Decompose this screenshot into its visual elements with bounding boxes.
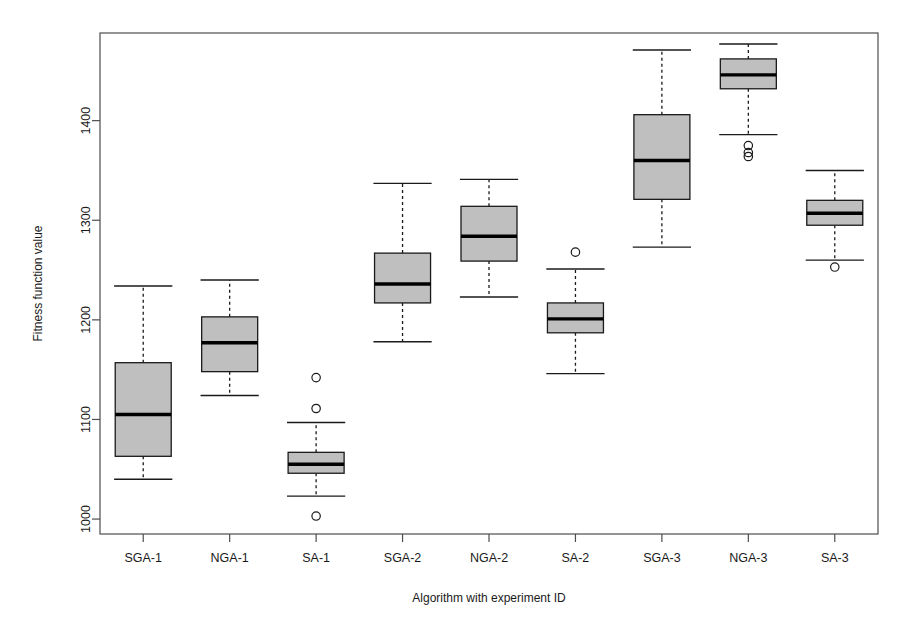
x-axis-tick-label-sa-1: SA-1 bbox=[302, 551, 330, 565]
box-group-sga-3 bbox=[633, 50, 691, 247]
plot-frame bbox=[100, 33, 878, 534]
box-group-nga-3 bbox=[719, 44, 777, 161]
box-body bbox=[461, 206, 517, 261]
x-axis-tick-label-nga-1: NGA-1 bbox=[211, 551, 249, 565]
x-axis-tick-label-sga-3: SGA-3 bbox=[643, 551, 681, 565]
outlier-point bbox=[312, 373, 320, 381]
x-axis-tick-label-nga-3: NGA-3 bbox=[729, 551, 767, 565]
y-axis-tick-label: 1400 bbox=[79, 107, 93, 135]
outlier-point bbox=[571, 248, 579, 256]
box-group-sa-3 bbox=[806, 170, 864, 271]
outlier-point bbox=[312, 404, 320, 412]
box-body bbox=[375, 253, 431, 303]
boxplot-canvas: 10001100120013001400Fitness function val… bbox=[0, 0, 909, 638]
box-group-sga-1 bbox=[114, 286, 172, 479]
x-axis-tick-label-nga-2: NGA-2 bbox=[470, 551, 508, 565]
box-group-sa-2 bbox=[546, 248, 604, 374]
box-group-sga-2 bbox=[373, 183, 431, 341]
x-axis-tick-label-sga-1: SGA-1 bbox=[124, 551, 162, 565]
box-group-nga-1 bbox=[201, 280, 259, 396]
box-group-sa-1 bbox=[287, 373, 345, 520]
outlier-point bbox=[312, 512, 320, 520]
y-axis-title: Fitness function value bbox=[31, 225, 45, 341]
outlier-point bbox=[831, 263, 839, 271]
boxplot-figure: 10001100120013001400Fitness function val… bbox=[0, 0, 909, 638]
y-axis-tick-label: 1100 bbox=[79, 406, 93, 433]
y-axis-tick-label: 1200 bbox=[79, 306, 93, 334]
box-body bbox=[115, 363, 171, 457]
y-axis-tick-label: 1300 bbox=[79, 206, 93, 234]
box-group-nga-2 bbox=[460, 179, 518, 297]
y-axis-tick-label: 1000 bbox=[79, 505, 93, 533]
x-axis-tick-label-sga-2: SGA-2 bbox=[384, 551, 422, 565]
x-axis-title: Algorithm with experiment ID bbox=[412, 591, 566, 605]
x-axis-tick-label-sa-2: SA-2 bbox=[562, 551, 590, 565]
box-body bbox=[634, 115, 690, 200]
x-axis-tick-label-sa-3: SA-3 bbox=[821, 551, 849, 565]
